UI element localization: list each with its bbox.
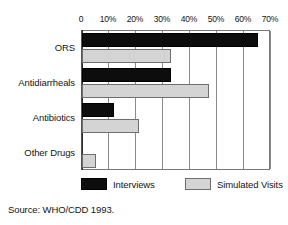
- x-tick-label: 10%: [100, 14, 116, 24]
- bar-simulated-visits-antidiarrheals: [82, 84, 209, 98]
- x-tick-label: 20%: [127, 14, 143, 24]
- x-tick-label: 60%: [235, 14, 251, 24]
- bar-interviews-antidiarrheals: [82, 68, 171, 82]
- bar-simulated-visits-ors: [82, 49, 171, 63]
- bar-interviews-antibiotics: [82, 103, 114, 117]
- category-label-ors: ORS: [55, 42, 75, 53]
- legend-item-interviews[interactable]: Interviews: [81, 178, 155, 190]
- source-note: Source: WHO/CDD 1993.: [8, 204, 114, 215]
- legend-swatch-icon: [185, 178, 211, 190]
- x-tick-label: 40%: [181, 14, 197, 24]
- x-axis-tick-labels: 010%20%30%40%50%60%70%: [81, 14, 270, 27]
- gridline: [270, 31, 271, 169]
- category-label-antidiarrheals: Antidiarrheals: [18, 77, 75, 88]
- x-tick-label: 30%: [154, 14, 170, 24]
- plot-area: [81, 30, 270, 170]
- chart-legend: InterviewsSimulated Visits: [81, 178, 281, 194]
- legend-swatch-icon: [81, 178, 107, 190]
- category-label-other-drugs: Other Drugs: [24, 147, 75, 158]
- gridline: [243, 31, 244, 169]
- bar-simulated-visits-antibiotics: [82, 119, 139, 133]
- x-tick-label: 70%: [262, 14, 278, 24]
- legend-label: Interviews: [113, 179, 155, 190]
- bar-simulated-visits-other-drugs: [82, 154, 96, 168]
- legend-item-simulated-visits[interactable]: Simulated Visits: [185, 178, 283, 190]
- gridline: [216, 31, 217, 169]
- gridline: [189, 31, 190, 169]
- x-tick-label: 0: [79, 14, 84, 24]
- bar-interviews-ors: [82, 33, 258, 47]
- chart-container: 010%20%30%40%50%60%70% ORSAntidiarrheals…: [0, 0, 288, 225]
- x-tick-label: 50%: [208, 14, 224, 24]
- category-label-antibiotics: Antibiotics: [33, 112, 75, 123]
- legend-label: Simulated Visits: [217, 179, 283, 190]
